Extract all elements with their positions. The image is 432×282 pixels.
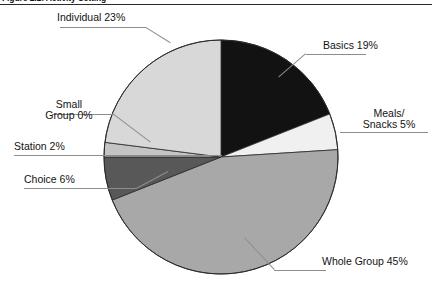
leader-line-basics [306, 54, 366, 55]
leader-line-choice [24, 188, 136, 189]
slice-label-small-group-line2: Group 0% [31, 110, 107, 121]
slice-label-basics: Basics 19% [323, 40, 378, 52]
slice-label-whole-group: Whole Group 45% [322, 256, 408, 268]
leader-line-station [14, 155, 222, 156]
slice-label-station: Station 2% [14, 141, 65, 153]
leader-line-meals-snacks [340, 132, 428, 133]
slice-label-meals-snacks-line2: Snacks 5% [352, 119, 426, 130]
pie-chart-svg [104, 40, 338, 274]
figure-container: Figure 2.1: Activity Setting Individual … [0, 0, 432, 282]
slice-label-meals-snacks: Meals/ Snacks 5% [352, 108, 426, 130]
slice-label-small-group: Small Group 0% [31, 99, 107, 121]
leader-line-individual [60, 27, 146, 28]
figure-title: Figure 2.1: Activity Setting [2, 0, 106, 3]
leader-line-whole-group [274, 270, 326, 271]
pie-chart [104, 40, 338, 274]
pie-slice-individual [105, 40, 221, 157]
title-divider [0, 4, 432, 5]
slice-label-choice: Choice 6% [24, 174, 75, 186]
slice-label-individual: Individual 23% [57, 12, 125, 24]
